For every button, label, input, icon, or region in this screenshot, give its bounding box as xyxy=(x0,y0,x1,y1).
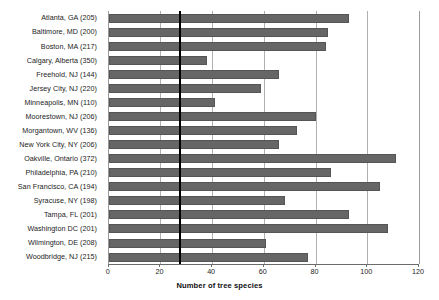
tree-species-bar-chart: Atlanta, GA (205)Baltimore, MD (200)Bost… xyxy=(0,0,439,300)
bar-row xyxy=(109,208,419,222)
plot-area xyxy=(108,11,420,264)
category-label: Moorestown, NJ (206) xyxy=(0,109,101,123)
bar xyxy=(109,14,349,23)
bar xyxy=(109,140,280,149)
x-tick-label: 120 xyxy=(412,268,424,275)
bar-row xyxy=(109,67,419,81)
bar-row xyxy=(109,222,419,236)
bar xyxy=(109,84,262,93)
category-label: Calgary, Alberta (350) xyxy=(0,53,101,67)
bar-row xyxy=(109,109,419,123)
bar xyxy=(109,28,329,37)
bar-row xyxy=(109,194,419,208)
category-label: Oakville, Ontario (372) xyxy=(0,152,101,166)
bar-series xyxy=(109,11,419,264)
x-tick-label: 100 xyxy=(360,268,372,275)
category-label: Woodbridge, NJ (215) xyxy=(0,250,101,264)
category-label: Washington DC (201) xyxy=(0,222,101,236)
bar xyxy=(109,56,207,65)
bar-row xyxy=(109,81,419,95)
category-label: Wilmington, DE (208) xyxy=(0,236,101,250)
category-axis-labels: Atlanta, GA (205)Baltimore, MD (200)Bost… xyxy=(0,11,101,264)
bar-row xyxy=(109,124,419,138)
category-label: Minneapolis, MN (110) xyxy=(0,95,101,109)
bar-row xyxy=(109,236,419,250)
x-axis-title: Number of tree species xyxy=(0,281,439,290)
category-label: Atlanta, GA (205) xyxy=(0,11,101,25)
bar xyxy=(109,168,331,177)
bar xyxy=(109,224,388,233)
bar-row xyxy=(109,138,419,152)
bar-row xyxy=(109,180,419,194)
bar-row xyxy=(109,95,419,109)
bar xyxy=(109,239,267,248)
reference-line xyxy=(179,11,182,264)
bar-row xyxy=(109,152,419,166)
x-tick-label: 20 xyxy=(155,268,163,275)
bar-row xyxy=(109,25,419,39)
bar-row xyxy=(109,11,419,25)
bar xyxy=(109,253,308,262)
category-label: New York City, NY (206) xyxy=(0,138,101,152)
x-tick-label: 80 xyxy=(311,268,319,275)
category-label: Freehold, NJ (144) xyxy=(0,67,101,81)
bar xyxy=(109,182,381,191)
x-tick-label: 40 xyxy=(207,268,215,275)
bar xyxy=(109,126,298,135)
bar-row xyxy=(109,39,419,53)
category-label: Baltimore, MD (200) xyxy=(0,25,101,39)
x-tick-label: 0 xyxy=(106,268,110,275)
x-tick-label: 60 xyxy=(259,268,267,275)
bar xyxy=(109,70,280,79)
category-label: Philadelphia, PA (210) xyxy=(0,166,101,180)
bar xyxy=(109,42,326,51)
bar-row xyxy=(109,53,419,67)
category-label: San Francisco, CA (194) xyxy=(0,180,101,194)
category-label: Tampa, FL (201) xyxy=(0,208,101,222)
bar xyxy=(109,196,285,205)
bar xyxy=(109,112,316,121)
category-label: Jersey City, NJ (220) xyxy=(0,81,101,95)
category-label: Syracuse, NY (198) xyxy=(0,194,101,208)
bar xyxy=(109,154,396,163)
category-label: Boston, MA (217) xyxy=(0,39,101,53)
bar xyxy=(109,98,215,107)
bar xyxy=(109,210,349,219)
bar-row xyxy=(109,166,419,180)
category-label: Morgantown, WV (136) xyxy=(0,124,101,138)
bar-row xyxy=(109,250,419,264)
